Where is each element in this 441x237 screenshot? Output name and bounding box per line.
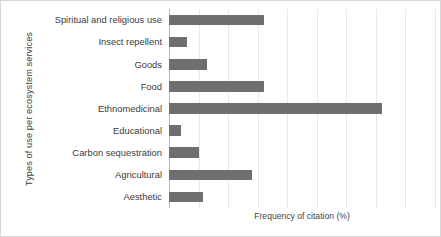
bar-row <box>169 120 435 142</box>
bar-row <box>169 142 435 164</box>
bar-series <box>169 9 435 208</box>
bar-row <box>169 164 435 186</box>
bar <box>169 81 264 92</box>
bar <box>169 37 187 48</box>
bar <box>169 147 199 158</box>
bar-row <box>169 53 435 75</box>
bar-row <box>169 9 435 31</box>
bar <box>169 103 382 114</box>
bar <box>169 15 264 26</box>
bar <box>169 170 252 181</box>
plot-area <box>169 9 435 208</box>
gridline <box>435 9 436 208</box>
bar <box>169 125 181 136</box>
category-axis-labels: Spiritual and religious useInsect repell… <box>9 9 165 208</box>
category-label: Carbon sequestration <box>72 148 165 157</box>
category-label: Spiritual and religious use <box>55 15 165 24</box>
bar-row <box>169 97 435 119</box>
chart-figure: Types of use per ecosystem services Spir… <box>0 0 441 237</box>
bar <box>169 192 203 203</box>
category-label: Agricultural <box>115 170 165 179</box>
category-label: Insect repellent <box>98 37 165 46</box>
bar <box>169 59 207 70</box>
category-label: Aesthetic <box>123 192 165 201</box>
bar-row <box>169 75 435 97</box>
category-label: Educational <box>113 126 165 135</box>
bar-row <box>169 31 435 53</box>
category-label: Ethnomedicinal <box>98 104 165 113</box>
x-axis-title: Frequency of citation (%) <box>169 211 435 221</box>
category-label: Food <box>141 82 165 91</box>
category-label: Goods <box>134 60 165 69</box>
bar-row <box>169 186 435 208</box>
